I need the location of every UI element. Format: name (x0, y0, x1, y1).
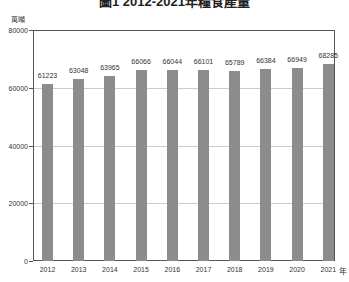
y-tick-label: 0 (24, 258, 28, 265)
bar-2018 (229, 71, 240, 261)
y-tick-mark (29, 146, 33, 147)
bar-2012 (42, 84, 53, 261)
y-tick-mark (29, 203, 33, 204)
x-axis-unit-label: 年 (339, 265, 347, 276)
bar-2013 (73, 79, 84, 261)
y-tick-label: 20000 (9, 200, 28, 207)
y-tick-label: 60000 (9, 84, 28, 91)
y-axis-unit-label: 萬噸 (11, 14, 25, 24)
bar-2020 (292, 68, 303, 261)
bar-2016 (167, 70, 178, 261)
y-tick-label: 80000 (9, 27, 28, 34)
bar-2014 (104, 76, 115, 261)
y-tick-mark (29, 88, 33, 89)
bar-value-label: 68285 (308, 52, 348, 59)
y-tick-mark (29, 30, 33, 31)
bar-2015 (136, 70, 147, 261)
chart-title: 圖1 2012-2021年糧食產量 (0, 0, 349, 10)
y-tick-label: 40000 (9, 142, 28, 149)
y-tick-mark (29, 261, 33, 262)
bar-value-label: 63965 (90, 64, 130, 71)
bar-2017 (198, 70, 209, 261)
bar-2019 (260, 69, 271, 261)
bar-2021 (323, 64, 334, 261)
